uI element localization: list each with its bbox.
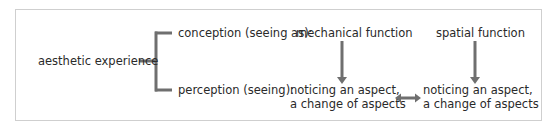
mechanical-function-label: mechanical function (296, 26, 413, 40)
arrow-right-icon (415, 94, 421, 103)
outcome-left: noticing an aspect, a change of aspects (290, 83, 394, 111)
outcome-right: noticing an aspect, a change of aspects (423, 83, 527, 111)
outcome-left-line1: noticing an aspect, (290, 83, 394, 97)
spatial-function-label: spatial function (436, 26, 525, 40)
outcome-right-line2: a change of aspects (423, 97, 527, 111)
root-label: aesthetic experience (38, 54, 158, 68)
conception-label: conception (seeing as): (178, 26, 313, 40)
outcome-left-line2: a change of aspects (290, 97, 394, 111)
outcome-right-line1: noticing an aspect, (423, 83, 527, 97)
perception-label: perception (seeing): (178, 83, 294, 97)
